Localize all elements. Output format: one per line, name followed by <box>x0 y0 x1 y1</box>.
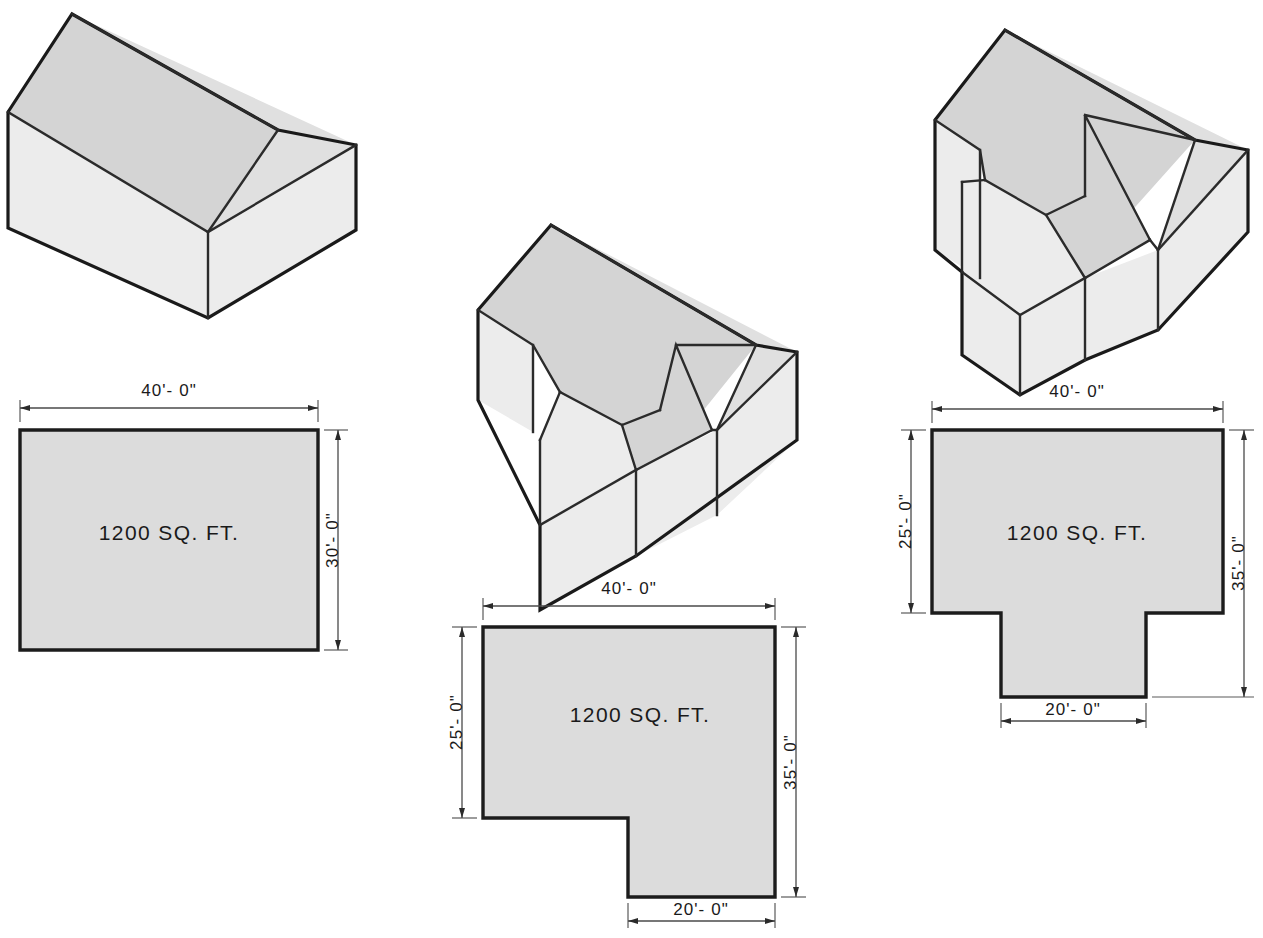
plan-fill-area <box>932 430 1223 697</box>
dimension-bottom-label: 20'- 0" <box>673 900 729 919</box>
dimension-bottom: 20'- 0" <box>628 900 775 928</box>
cropped-caption-text <box>0 0 1263 1</box>
dimension-bottom-label: 20'- 0" <box>1045 700 1101 719</box>
t-shaped-floor-plan: 40'- 0" 25'- 0" <box>896 382 1254 728</box>
gable-roof-rectangular-house-isometric <box>8 14 356 318</box>
dimension-top: 40'- 0" <box>483 579 775 620</box>
plan-area-label: 1200 SQ. FT. <box>99 521 240 544</box>
figure-t-shaped-gable: 40'- 0" 25'- 0" <box>896 30 1254 728</box>
architectural-illustration: 40'- 0" 30'- 0" 1200 SQ. FT. <box>0 0 1263 938</box>
dimension-top-label: 40'- 0" <box>601 579 657 598</box>
dimension-left-label: 25'- 0" <box>447 694 466 750</box>
dimension-top: 40'- 0" <box>20 381 318 422</box>
dimension-top-label: 40'- 0" <box>1049 382 1105 401</box>
dimension-right: 35'- 0" <box>781 627 806 897</box>
dimension-bottom: 20'- 0" <box>1001 700 1146 728</box>
gable-roof-t-shaped-house-isometric <box>935 30 1248 395</box>
dimension-left-label: 25'- 0" <box>896 493 915 549</box>
dimension-right-label: 35'- 0" <box>781 734 800 790</box>
l-shaped-floor-plan: 40'- 0" 25'- 0" <box>447 579 806 928</box>
figure-rectangular-gable: 40'- 0" 30'- 0" 1200 SQ. FT. <box>8 14 356 650</box>
dimension-top: 40'- 0" <box>932 382 1223 423</box>
dimension-right-label: 35'- 0" <box>1229 535 1248 591</box>
plan-area-label: 1200 SQ. FT. <box>1007 521 1148 544</box>
dimension-right: 30'- 0" <box>323 430 348 650</box>
dimension-left: 25'- 0" <box>896 430 926 613</box>
plan-area-label: 1200 SQ. FT. <box>570 703 711 726</box>
rectangular-floor-plan: 40'- 0" 30'- 0" 1200 SQ. FT. <box>20 381 348 650</box>
dimension-left: 25'- 0" <box>447 627 477 818</box>
drawing-sheet: 40'- 0" 30'- 0" 1200 SQ. FT. <box>0 0 1263 938</box>
figure-l-shaped-gable: 40'- 0" 25'- 0" <box>447 225 806 928</box>
dimension-right-label: 30'- 0" <box>323 512 342 568</box>
dimension-top-label: 40'- 0" <box>141 381 197 400</box>
gable-roof-l-shaped-house-isometric <box>478 225 797 610</box>
